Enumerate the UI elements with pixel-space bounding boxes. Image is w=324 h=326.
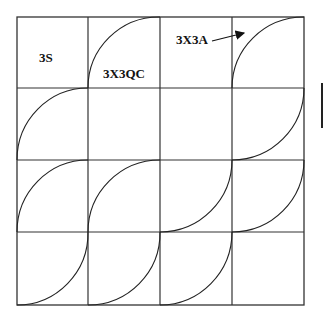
arc-r2c1 [17, 88, 88, 160]
arc-r4c1 [17, 232, 88, 305]
scale-bar [321, 83, 323, 128]
arc-r4c2 [88, 232, 160, 305]
arc-r3c3 [160, 160, 232, 232]
label-3x3qc: 3X3QC [103, 66, 145, 81]
label-3s: 3S [39, 50, 53, 65]
tiling-diagram: 3S 3X3QC 3X3A [0, 0, 324, 326]
label-3x3a: 3X3A [176, 32, 208, 47]
arrow-icon [212, 33, 244, 41]
arc-r3c1 [17, 160, 88, 232]
arc-r3c4 [232, 160, 304, 232]
arc-r3c2 [88, 160, 160, 232]
arc-r4c3 [160, 232, 232, 305]
arc-r1c4 [232, 17, 304, 88]
grid-lines [17, 17, 304, 305]
arc-r2c4 [232, 88, 304, 160]
